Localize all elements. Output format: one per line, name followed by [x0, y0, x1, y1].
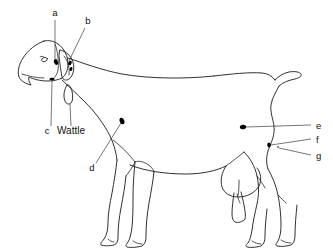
- leader-line-b: [69, 28, 85, 61]
- hoof-cleft-foreleg-near: [108, 239, 114, 242]
- hoof-cleft-hindleg-near: [252, 241, 261, 244]
- eye-lash: [40, 56, 44, 57]
- goat-outline-group: [18, 41, 301, 248]
- diagram-canvas: a b c Wattle d e f g: [0, 0, 333, 249]
- label-f: f: [316, 134, 319, 145]
- label-b: b: [85, 15, 90, 26]
- mouth-line: [22, 74, 44, 78]
- rump-rear-contour: [267, 86, 279, 169]
- flank-fold-line: [226, 152, 244, 166]
- goat-anatomy-diagram: a b c Wattle d e f g: [0, 0, 333, 249]
- label-c: c: [45, 125, 50, 136]
- label-g: g: [316, 150, 321, 161]
- back-line: [214, 73, 275, 80]
- tail-outline: [275, 72, 301, 86]
- wattle-outline: [64, 85, 73, 104]
- marker-c-muzzle: [49, 78, 54, 81]
- shoulder-line: [113, 140, 135, 162]
- foreleg-near-outline: [101, 160, 126, 246]
- hindleg-far-outline: [268, 169, 297, 246]
- label-e: e: [316, 120, 321, 131]
- foreleg-far-top: [135, 161, 154, 172]
- marker-g-dot: [277, 146, 279, 148]
- neck-top-line: [68, 58, 214, 78]
- hoof-cleft-foreleg-far: [133, 241, 142, 244]
- leader-line-f: [271, 139, 311, 145]
- leader-line-wattle: [70, 104, 71, 126]
- belly-line: [130, 165, 226, 174]
- label-d: d: [89, 162, 94, 173]
- label-wattle: Wattle: [57, 125, 85, 136]
- hindleg-near-outline: [244, 152, 267, 247]
- leader-line-e: [246, 125, 311, 127]
- leader-line-g: [279, 148, 311, 155]
- foreleg-far-outline: [126, 162, 154, 247]
- marker-e-flank: [239, 124, 246, 130]
- leader-line-c: [51, 81, 52, 126]
- hoof-cleft-hindleg-far: [281, 240, 291, 243]
- marker-d-shoulder: [119, 117, 126, 125]
- label-a: a: [52, 7, 58, 18]
- throat-chest-line: [62, 80, 117, 160]
- udder-cleft-line: [238, 180, 239, 196]
- eye: [41, 57, 48, 63]
